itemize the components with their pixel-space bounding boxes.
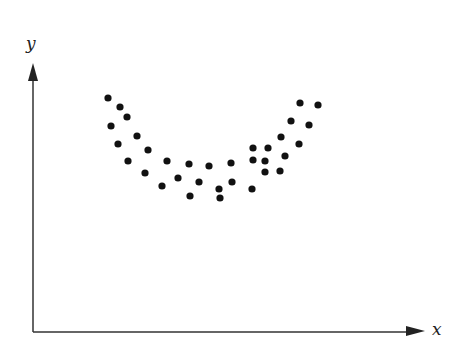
data-point [277,133,284,140]
data-point [227,159,234,166]
data-point [305,121,312,128]
data-point [287,117,294,124]
data-point [249,144,256,151]
x-axis [33,326,425,336]
data-point [123,113,130,120]
data-point [116,103,123,110]
data-point [185,160,192,167]
y-axis [28,63,38,332]
data-point [295,140,302,147]
data-point [216,194,223,201]
data-point [107,122,114,129]
data-point [195,178,202,185]
data-point [215,185,222,192]
scatter-plot: y x [0,0,470,359]
data-point [124,157,131,164]
data-point [248,185,255,192]
x-axis-label: x [432,319,442,339]
data-points [104,94,321,201]
data-point [104,94,111,101]
data-point [174,174,181,181]
data-point [249,156,256,163]
y-axis-label: y [25,33,36,53]
data-point [158,182,165,189]
data-point [281,152,288,159]
data-point [144,146,151,153]
data-point [261,157,268,164]
data-point [141,169,148,176]
data-point [228,178,235,185]
data-point [314,101,321,108]
data-point [261,168,268,175]
data-point [114,140,121,147]
data-point [186,192,193,199]
data-point [264,144,271,151]
data-point [276,167,283,174]
data-point [163,157,170,164]
data-point [205,162,212,169]
data-point [296,99,303,106]
data-point [133,132,140,139]
